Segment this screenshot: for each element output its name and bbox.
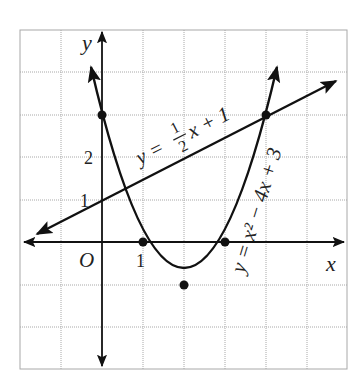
point-1-0: [139, 238, 148, 247]
origin-label: O: [79, 248, 94, 272]
point-3-0: [221, 238, 230, 247]
grid: [20, 30, 347, 369]
tick-y-1: 1: [80, 191, 89, 211]
point-vertex-2-neg1: [180, 281, 189, 290]
point-4-3: [262, 111, 271, 120]
tick-x-1: 1: [136, 251, 145, 271]
line-graph: [37, 81, 336, 234]
tick-y-2: 2: [84, 148, 93, 168]
point-0-3: [98, 111, 107, 120]
line-equation-label: y = 1 2 x + 1: [126, 95, 236, 175]
x-axis-label: x: [325, 251, 336, 276]
coordinate-plane-figure: y x O 1 1 2 y = 1 2 x + 1 y = x² − 4x + …: [0, 0, 360, 389]
line-eq-frac-num: 1: [167, 118, 182, 137]
line-eq-frac-den: 2: [176, 137, 191, 156]
y-axis-label: y: [80, 30, 92, 55]
line-eq-lhs: y =: [130, 135, 168, 170]
